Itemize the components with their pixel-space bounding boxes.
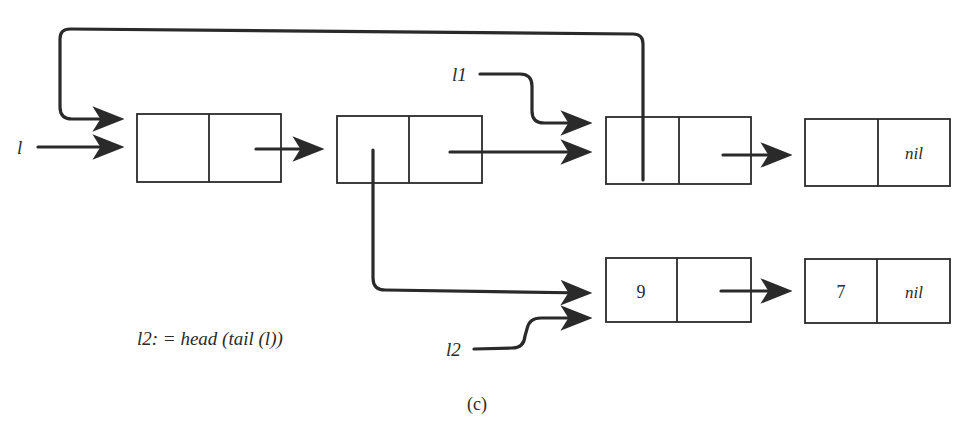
variable-l-label: l xyxy=(17,137,22,158)
cell-4 xyxy=(805,119,950,186)
variable-l1-label: l1 xyxy=(452,64,467,85)
cell-2 xyxy=(337,116,482,183)
pointer-arrow-l2 xyxy=(474,318,586,349)
pointer-arrow-c2-head xyxy=(373,150,586,293)
figure-caption: (c) xyxy=(467,394,487,415)
cell-3 xyxy=(606,117,751,184)
pointer-arrow-c3-head-loop xyxy=(60,29,643,180)
cell-6 xyxy=(805,259,950,323)
nil-label: nil xyxy=(905,283,923,302)
pointer-arrow-l1 xyxy=(480,74,586,123)
statement-text: l2: = head (tail (l)) xyxy=(137,328,283,350)
value-9-label: 9 xyxy=(637,282,646,302)
value-7-label: 7 xyxy=(837,282,846,302)
nil-label: nil xyxy=(905,144,923,163)
variable-l2-label: l2 xyxy=(446,339,461,360)
linked-list-diagram: nil 9 7 nil l l1 l2 l2: = head (tail (l)… xyxy=(0,0,972,438)
